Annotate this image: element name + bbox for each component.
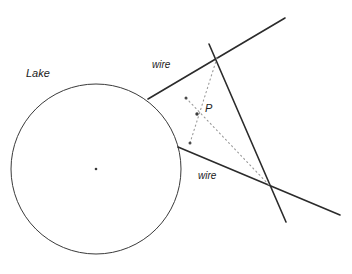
wire-upper-label: wire <box>152 59 170 70</box>
wire-lower-label: wire <box>198 170 216 181</box>
crossing-line <box>209 44 286 222</box>
dotted-vertical-segment <box>190 58 217 143</box>
lake-center-dot <box>95 168 98 171</box>
point-p-label: P <box>205 102 212 114</box>
point-lower-dot <box>189 142 192 145</box>
lake-label: Lake <box>26 67 50 79</box>
point-upper-left-dot <box>185 97 188 100</box>
wire-lower-line <box>178 147 340 215</box>
geometry-diagram <box>0 0 352 274</box>
point-p-dot <box>195 112 198 115</box>
